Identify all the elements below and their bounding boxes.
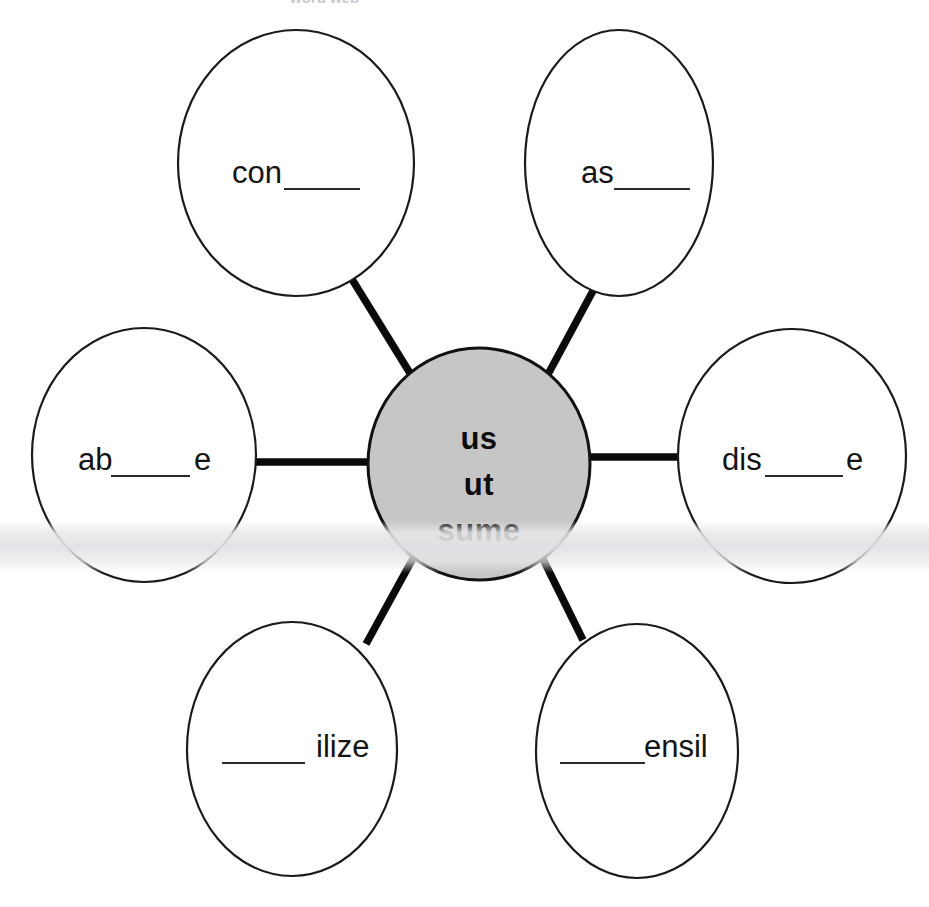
node-middle-right[interactable]: dis e [678,329,906,583]
node-top-left-label: con [232,155,282,190]
center-node-line-2: ut [464,467,494,502]
center-node[interactable]: us ut sume [368,348,590,580]
diagram-canvas: word web con as ab e [0,0,929,907]
node-bottom-left-suffix: ilize [316,729,369,764]
node-middle-left-prefix: ab [78,442,112,477]
node-middle-left-outline[interactable] [32,328,256,582]
node-top-left-outline[interactable] [178,30,414,296]
node-middle-right-suffix: e [846,442,863,477]
node-top-right-outline[interactable] [525,30,713,296]
spoke-to-node-bottom-right [540,553,583,640]
node-middle-left[interactable]: ab e [32,328,256,582]
node-bottom-right-suffix: ensil [644,729,708,764]
node-middle-right-prefix: dis [722,442,762,477]
node-bottom-right[interactable]: ensil [536,624,738,878]
spoke-to-node-bottom-left [366,553,416,644]
node-top-left[interactable]: con [178,30,414,296]
center-node-line-1: us [460,421,497,456]
node-top-right[interactable]: as [525,30,713,296]
node-top-right-label: as [581,155,614,190]
node-middle-left-suffix: e [194,442,211,477]
word-web-diagram: con as ab e dis e ilize [0,0,929,907]
node-middle-right-outline[interactable] [678,329,906,583]
spoke-to-node-top-left [350,276,413,378]
center-node-line-3: sume [438,513,521,548]
node-bottom-left[interactable]: ilize [187,622,397,876]
